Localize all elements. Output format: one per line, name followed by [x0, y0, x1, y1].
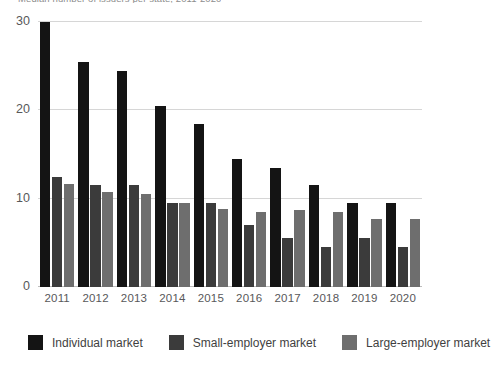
bar-group-2012: [76, 22, 114, 287]
bar-group-2013: [115, 22, 153, 287]
bar-group-2018: [307, 22, 345, 287]
x-tick-label-2018: 2018: [307, 292, 345, 304]
legend-item-1[interactable]: Small-employer market: [169, 335, 316, 350]
bar-2015-series-0: [194, 124, 205, 287]
y-tick-label: 0: [23, 280, 30, 293]
bar-2019-series-2: [371, 219, 382, 287]
x-tick-label-2011: 2011: [38, 292, 76, 304]
bar-2014-series-0: [155, 106, 166, 287]
bar-2013-series-2: [141, 194, 152, 287]
bar-2016-series-1: [244, 225, 255, 287]
x-tick-label-2016: 2016: [230, 292, 268, 304]
legend-label: Small-employer market: [193, 336, 316, 350]
bar-2014-series-1: [167, 203, 178, 287]
legend-label: Individual market: [52, 336, 143, 350]
x-tick-label-2014: 2014: [153, 292, 191, 304]
bar-group-2014: [153, 22, 191, 287]
legend-swatch-icon: [28, 335, 43, 350]
bar-group-2015: [192, 22, 230, 287]
chart-title: Median number of issuers per state, 2011…: [18, 0, 221, 3]
bar-2019-series-0: [347, 203, 358, 287]
bar-2020-series-2: [410, 219, 421, 287]
bar-groups: [38, 22, 422, 287]
bar-2016-series-2: [256, 212, 267, 287]
bar-2020-series-0: [386, 203, 397, 287]
bar-group-2017: [268, 22, 306, 287]
x-tick-label-2019: 2019: [345, 292, 383, 304]
bar-2012-series-0: [78, 62, 89, 287]
bar-2011-series-0: [40, 22, 51, 287]
chart-legend: Individual marketSmall-employer marketLa…: [28, 335, 495, 350]
legend-label: Large-employer market: [366, 336, 490, 350]
x-tick-label-2013: 2013: [115, 292, 153, 304]
bar-2014-series-2: [179, 203, 190, 287]
y-tick-label: 10: [16, 191, 30, 204]
bar-2018-series-0: [309, 185, 320, 287]
bar-2017-series-1: [282, 238, 293, 287]
bar-group-2019: [345, 22, 383, 287]
bar-2020-series-1: [398, 247, 409, 287]
bar-2012-series-2: [102, 192, 113, 287]
bar-2016-series-0: [232, 159, 243, 287]
x-tick-label-2015: 2015: [192, 292, 230, 304]
bar-2017-series-0: [270, 168, 281, 287]
bar-2015-series-1: [206, 203, 217, 287]
bar-2019-series-1: [359, 238, 370, 287]
x-tick-label-2012: 2012: [76, 292, 114, 304]
bar-group-2020: [384, 22, 422, 287]
legend-item-0[interactable]: Individual market: [28, 335, 143, 350]
bar-group-2016: [230, 22, 268, 287]
bar-2011-series-1: [52, 177, 63, 287]
legend-swatch-icon: [169, 335, 184, 350]
bar-2018-series-1: [321, 247, 332, 287]
legend-swatch-icon: [342, 335, 357, 350]
bar-2013-series-0: [117, 71, 128, 287]
y-tick-label: 30: [16, 15, 30, 28]
legend-item-2[interactable]: Large-employer market: [342, 335, 490, 350]
y-tick-label: 20: [16, 103, 30, 116]
bar-2018-series-2: [333, 212, 344, 287]
bar-2012-series-1: [90, 185, 101, 287]
plot-area: 0102030: [38, 22, 422, 287]
x-tick-label-2017: 2017: [268, 292, 306, 304]
bar-2015-series-2: [218, 209, 229, 287]
bar-2011-series-2: [64, 184, 75, 287]
x-axis-labels: 2011201220132014201520162017201820192020: [38, 292, 422, 304]
bar-2017-series-2: [294, 210, 305, 287]
bar-group-2011: [38, 22, 76, 287]
bar-2013-series-1: [129, 185, 140, 287]
x-tick-label-2020: 2020: [384, 292, 422, 304]
